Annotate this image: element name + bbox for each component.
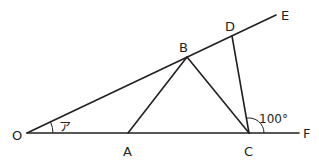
label-d: D	[225, 19, 235, 34]
label-e: E	[281, 8, 289, 23]
geometry-diagram: O A B C D E F ア 100°	[0, 0, 319, 164]
segment-bc	[187, 57, 249, 133]
label-c: C	[244, 144, 253, 159]
angle-label-a: ア	[59, 120, 71, 134]
label-b: B	[179, 40, 188, 55]
label-f: F	[303, 126, 310, 141]
label-o: O	[12, 128, 22, 143]
segment-ab	[128, 57, 187, 133]
label-a: A	[123, 144, 132, 159]
angle-arc-o	[51, 122, 54, 133]
angle-label-100: 100°	[259, 112, 288, 126]
